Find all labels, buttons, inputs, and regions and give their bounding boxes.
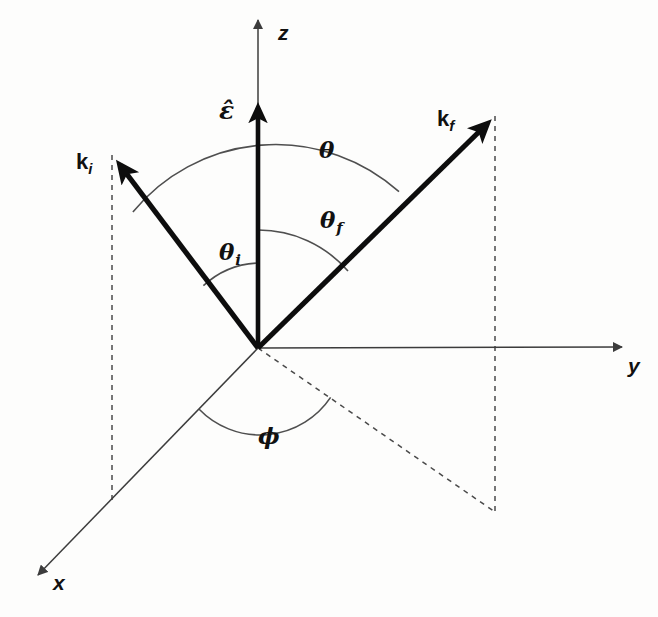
theta-i-subscript-glyph: i	[235, 251, 241, 269]
diagram-canvas	[0, 0, 658, 617]
ki-vector-label: ki	[76, 151, 92, 173]
polarization-vector-label: ε̂	[219, 98, 234, 123]
theta-f-angle-label: θf	[320, 208, 342, 231]
theta-f-arc	[258, 230, 348, 271]
kf-vector-label: kf	[437, 108, 454, 130]
x-axis-label: x	[53, 572, 65, 593]
kf-vector-line	[258, 124, 487, 348]
coordinate-axes	[38, 20, 622, 575]
scattering-geometry-figure: z y x ki kf ε̂ θ θf θi ϕ	[0, 0, 658, 617]
kf-ground-projection-line	[258, 348, 495, 512]
ki-subscript-glyph: i	[88, 160, 92, 177]
angle-arcs	[133, 145, 399, 435]
kf-base-glyph: k	[437, 106, 449, 131]
ki-base-glyph: k	[76, 149, 88, 174]
x-axis-line	[38, 348, 258, 575]
kf-subscript-glyph: f	[449, 117, 454, 134]
phi-angle-label: ϕ	[258, 424, 280, 447]
theta-i-base-glyph: θ	[219, 238, 234, 265]
theta-angle-label: θ	[319, 138, 334, 161]
theta-i-angle-label: θi	[219, 240, 240, 263]
y-axis-line	[258, 347, 622, 348]
y-axis-label: y	[628, 355, 640, 376]
theta-arc	[133, 145, 399, 212]
z-axis-label: z	[278, 22, 289, 43]
wavevectors	[120, 108, 487, 348]
theta-f-base-glyph: θ	[320, 206, 335, 233]
theta-f-subscript-glyph: f	[336, 219, 342, 237]
